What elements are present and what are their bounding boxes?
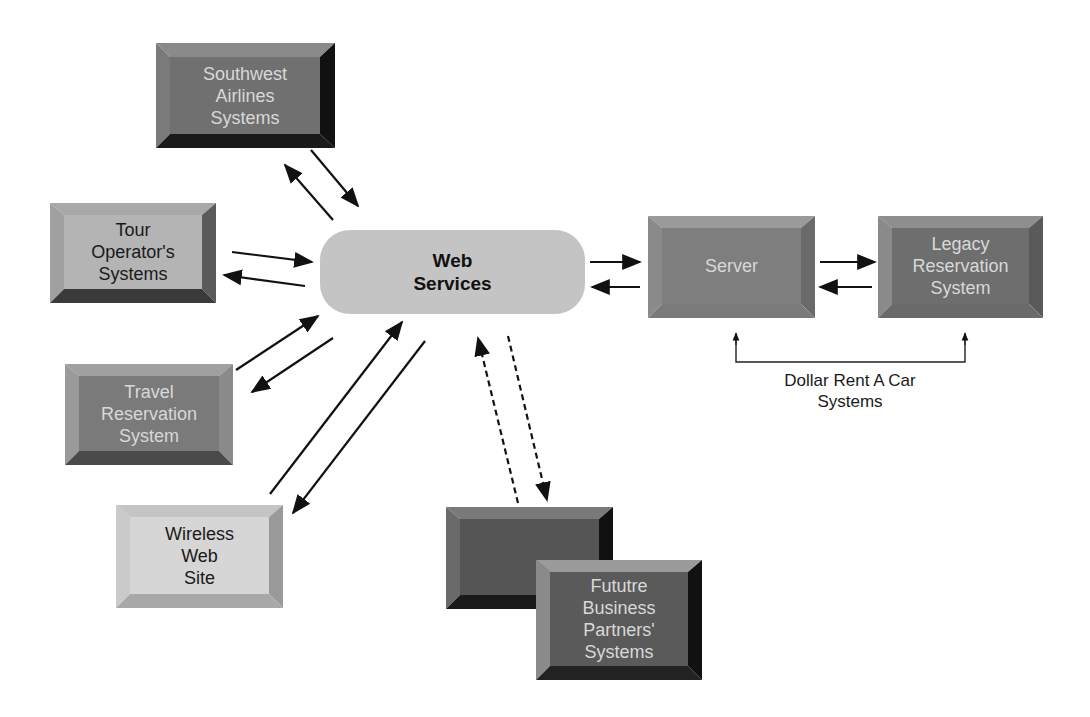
arrow-hub-to-wireless [293, 341, 425, 513]
node-label: Legacy Reservation System [892, 228, 1029, 304]
node-label: Travel Reservation System [79, 376, 219, 451]
node-future-business-partners: Fututre Business Partners' Systems [536, 560, 702, 680]
node-label: Wireless Web Site [130, 517, 269, 594]
node-server: Server [648, 216, 815, 318]
node-travel-reservation: Travel Reservation System [65, 364, 233, 465]
node-tour-operator: Tour Operator's Systems [50, 203, 216, 303]
node-legacy-reservation: Legacy Reservation System [878, 216, 1043, 318]
arrow-hub-to-partners [508, 336, 547, 500]
node-label: Server [662, 228, 801, 304]
dollar-rent-a-car-caption: Dollar Rent A Car Systems [745, 370, 955, 412]
arrow-hub-to-tour [224, 275, 305, 286]
arrow-hub-to-southwest [285, 165, 333, 220]
arrow-travel-to-hub [236, 316, 318, 370]
arrow-wireless-to-hub [270, 322, 402, 494]
arrow-southwest-to-hub [311, 150, 358, 206]
arrow-hub-to-travel [252, 338, 333, 392]
hub-web-services: Web Services [320, 230, 585, 314]
node-label: Fututre Business Partners' Systems [550, 572, 688, 666]
node-label: Southwest Airlines Systems [170, 57, 320, 134]
dollar-group-bracket [736, 333, 965, 362]
arrow-tour-to-hub [232, 252, 312, 262]
arrow-partners-to-hub [478, 338, 518, 503]
node-label: Tour Operator's Systems [64, 215, 202, 289]
node-southwest-airlines: Southwest Airlines Systems [156, 43, 335, 148]
node-wireless-web-site: Wireless Web Site [116, 505, 283, 608]
